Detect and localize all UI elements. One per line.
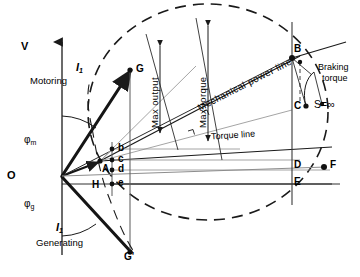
- braking-torque-label-line1: Braking: [318, 63, 349, 72]
- angle-phi-m-sub: m: [30, 139, 36, 146]
- braking-torque-label-line2: torque: [322, 74, 348, 83]
- voltage-axis-label: V: [21, 41, 28, 52]
- point-G: [127, 67, 132, 72]
- point-label-b: b: [118, 143, 124, 153]
- point-F: [321, 164, 327, 170]
- point-label-E: E: [294, 177, 301, 187]
- angle-phi-m: φm: [24, 135, 36, 146]
- point-label-D: D: [294, 160, 301, 170]
- point-B2: [298, 60, 302, 64]
- aux-dashed-curve: [88, 80, 134, 252]
- point-label-C: C: [294, 101, 301, 111]
- max-output-label: Max output: [150, 77, 160, 128]
- point-e: [110, 182, 115, 187]
- point-label-d: d: [118, 164, 124, 174]
- line-A-C-grey: [100, 110, 292, 161]
- origin-label: O: [7, 170, 16, 181]
- point-label-e: e: [118, 178, 124, 188]
- angle-phi-g-sub: g: [30, 203, 34, 210]
- point-label-A: A: [102, 164, 109, 174]
- generating-mode-label: Generating: [36, 238, 83, 248]
- generating-current-sub: 1: [59, 227, 63, 234]
- diagram-canvas: [0, 0, 360, 277]
- point-d: [110, 168, 115, 173]
- point-label-G: G: [136, 64, 144, 74]
- motoring-current-label: I1: [76, 62, 83, 74]
- point-b: [110, 147, 115, 152]
- point-label-F: F: [330, 160, 336, 170]
- motoring-mode-label: Motoring: [30, 76, 67, 86]
- point-label-B: B: [294, 44, 301, 54]
- slip-infinity-label: S=∞: [314, 99, 335, 110]
- point-label-Gprime: G': [124, 252, 134, 262]
- line-A-b-grey: [100, 66, 196, 161]
- arc-phi-g: [62, 224, 96, 236]
- point-label-H: H: [92, 180, 99, 190]
- generating-current-label: I1: [56, 222, 63, 234]
- point-S-infinity: [303, 103, 308, 108]
- motoring-current-sub: 1: [79, 67, 83, 74]
- point-c: [110, 158, 115, 163]
- angle-phi-g: φg: [24, 199, 34, 210]
- circle-diagram-figure: V O φm φg I1 Motoring I1 Generating G A …: [0, 0, 360, 277]
